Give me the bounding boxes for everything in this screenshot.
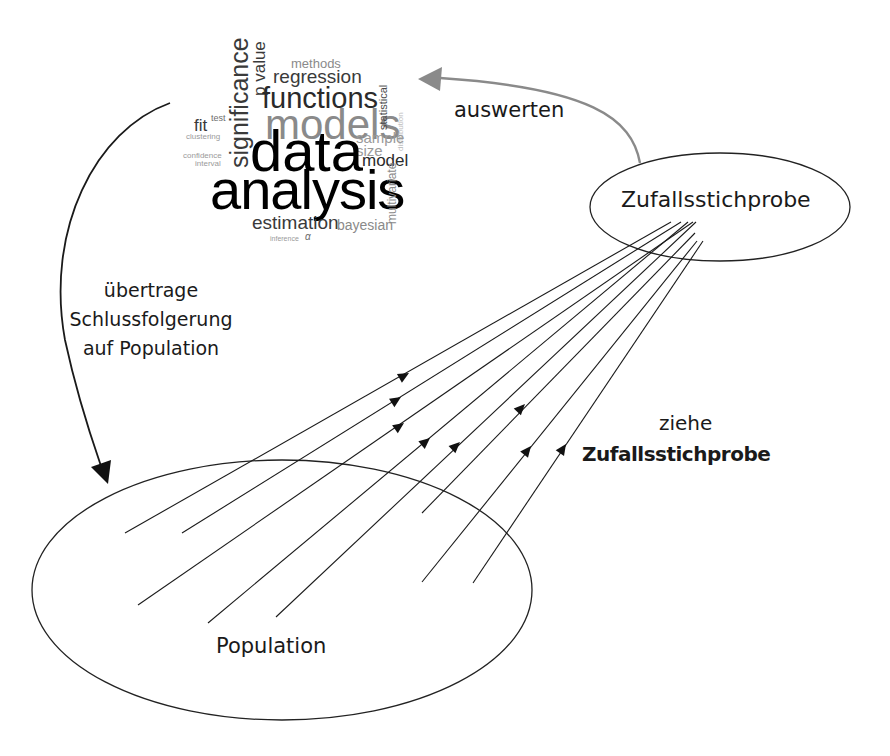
inference-arrowhead-icon xyxy=(91,460,111,484)
draw-sample-label-2: Zufallsstichprobe xyxy=(582,442,770,466)
wc-clustering: clustering xyxy=(186,133,220,141)
wc-bayesian: bayesian xyxy=(337,218,393,232)
evaluate-arrowhead-icon xyxy=(418,67,442,91)
wc-multivariate: multivariate xyxy=(386,163,398,224)
population-node-label: Population xyxy=(216,634,326,658)
inference-label-line1: übertrage xyxy=(66,276,236,305)
arrowhead-icon xyxy=(389,393,404,407)
inference-label-line2: Schlussfolgerung xyxy=(66,305,236,334)
evaluate-label: auswerten xyxy=(454,98,564,122)
arrowhead-icon xyxy=(556,441,570,456)
diagram-canvas xyxy=(0,0,890,756)
inference-label: übertrage Schlussfolgerung auf Populatio… xyxy=(66,276,236,363)
draw-sample-label-1: ziehe xyxy=(659,411,712,435)
population-ellipse xyxy=(32,460,532,720)
wc-test: test xyxy=(211,114,226,123)
arrowhead-icon xyxy=(514,401,529,416)
inference-label-line3: auf Population xyxy=(66,334,236,363)
wc-significance: significance xyxy=(227,37,252,168)
wc-statistical: statistical xyxy=(378,85,389,130)
wc-inference: inference xyxy=(270,235,299,242)
arrowhead-icon xyxy=(449,438,464,453)
wc-alpha: α xyxy=(305,232,311,242)
wc-analysis: analysis xyxy=(210,162,404,218)
sampling-diagram: significance p value methods regression … xyxy=(0,0,890,756)
wc-estimation: estimation xyxy=(252,213,339,232)
sample-node-label: Zufallsstichprobe xyxy=(621,187,811,212)
